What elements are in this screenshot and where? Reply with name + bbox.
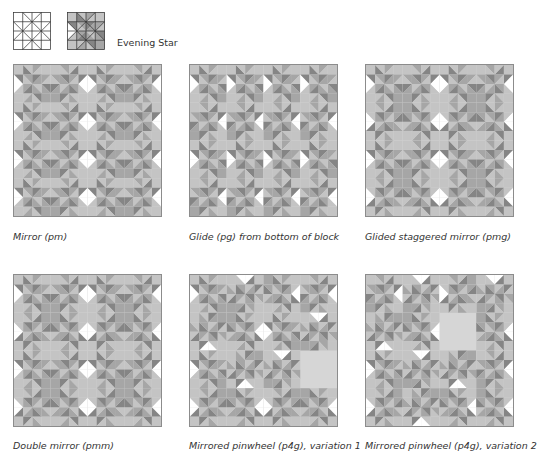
panel-caption: Glided staggered mirror (pmg) — [365, 231, 511, 242]
panel-caption: Glide (pg) from bottom of block — [189, 231, 339, 242]
panel-caption: Mirror (pm) — [13, 231, 67, 242]
block-shaded-thumbnail — [67, 12, 105, 50]
panel-caption: Mirrored pinwheel (p4g), variation 1 — [189, 440, 361, 451]
quilt-panel-double-mirror — [13, 274, 162, 427]
quilt-panel-glided-staggered-mirror — [365, 64, 514, 217]
panel-caption: Double mirror (pmm) — [13, 440, 114, 451]
block-name-label: Evening Star — [117, 37, 178, 48]
panel-caption: Mirrored pinwheel (p4g), variation 2 — [365, 440, 537, 451]
quilt-panel-mirrored-pinwheel-1 — [189, 274, 338, 427]
quilt-panel-mirror — [13, 64, 162, 217]
quilt-panel-glide — [189, 64, 338, 217]
quilt-panel-mirrored-pinwheel-2 — [365, 274, 514, 427]
block-outline-thumbnail — [13, 12, 51, 50]
